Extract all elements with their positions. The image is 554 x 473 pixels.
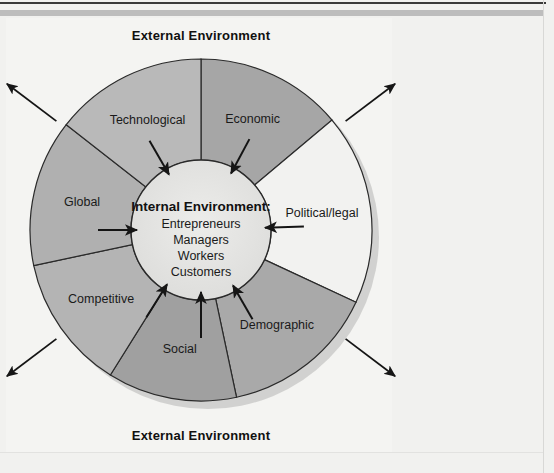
- segment-label-competitive: Competitive: [68, 292, 134, 306]
- segment-label-political-legal: Political/legal: [286, 206, 359, 220]
- banner-top: External Environment: [132, 28, 271, 43]
- segment-label-global: Global: [64, 195, 100, 209]
- figure-page: EconomicPolitical/legalDemographicSocial…: [0, 0, 554, 473]
- outward-arrow-2: [346, 339, 396, 376]
- segment-label-economic: Economic: [225, 112, 280, 126]
- segment-label-technological: Technological: [110, 113, 186, 127]
- internal-item-1: Managers: [173, 233, 229, 247]
- banner-bottom: External Environment: [132, 428, 271, 443]
- inward-arrow-2: [265, 226, 304, 227]
- internal-environment-heading: Internal Environment:: [131, 199, 271, 214]
- segment-label-demographic: Demographic: [240, 318, 314, 332]
- internal-item-3: Customers: [171, 265, 231, 279]
- segment-label-social: Social: [163, 342, 197, 356]
- outward-arrow-1: [346, 84, 396, 121]
- environment-wheel-diagram: EconomicPolitical/legalDemographicSocial…: [0, 0, 554, 473]
- outward-arrow-0: [7, 84, 57, 121]
- outward-arrow-3: [7, 339, 57, 376]
- internal-item-0: Entrepreneurs: [161, 217, 240, 231]
- internal-item-2: Workers: [178, 249, 224, 263]
